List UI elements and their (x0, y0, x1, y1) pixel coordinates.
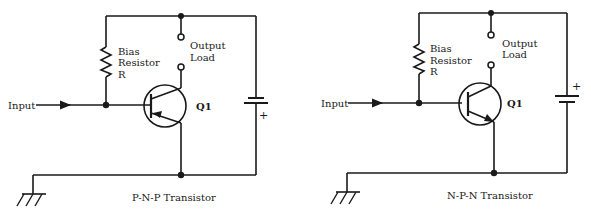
npn-transistor-icon (459, 83, 501, 125)
transistor-label: Q1 (507, 98, 523, 109)
load-label: Output (502, 38, 538, 49)
resistor-icon (414, 44, 424, 74)
pnp-circuit: Input Bias Resistor R Output Load Q1 + P… (8, 13, 268, 206)
input-label: Input (8, 100, 35, 111)
load-terminal-icon (178, 64, 184, 70)
load-label: Output (190, 40, 226, 51)
pnp-transistor-icon (144, 85, 186, 127)
circuit-diagrams: Input Bias Resistor R Output Load Q1 + P… (0, 0, 591, 215)
load-terminal-icon (488, 32, 494, 38)
junction-dot (178, 172, 184, 178)
resistor-label: R (118, 69, 126, 80)
load-terminal-icon (178, 34, 184, 40)
diagram-caption: P-N-P Transistor (132, 192, 216, 203)
resistor-label: Bias (430, 43, 452, 54)
resistor-label: Resistor (118, 57, 160, 68)
junction-dot (491, 170, 497, 176)
resistor-icon (101, 47, 111, 77)
battery-icon (555, 96, 579, 102)
battery-polarity-label: + (572, 80, 581, 93)
ground-icon (331, 173, 360, 204)
battery-icon (244, 98, 268, 103)
resistor-label: Bias (118, 46, 140, 57)
battery-polarity-label: + (259, 109, 268, 122)
transistor-label: Q1 (196, 101, 212, 112)
input-label: Input (321, 98, 348, 109)
resistor-label: Resistor (430, 55, 472, 66)
ground-icon (17, 175, 46, 206)
npn-circuit: Input Bias Resistor R Output Load Q1 + N… (321, 10, 581, 204)
load-terminal-icon (488, 62, 494, 68)
load-label: Load (502, 49, 528, 60)
resistor-label: R (430, 66, 438, 77)
load-label: Load (190, 52, 216, 63)
diagram-caption: N-P-N Transistor (447, 190, 533, 201)
